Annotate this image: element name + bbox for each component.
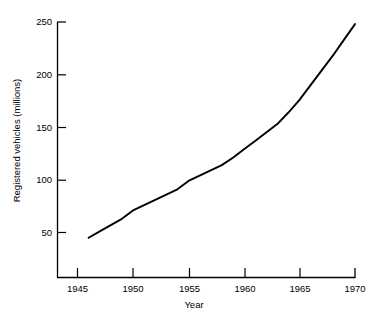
y-tick-label-250: 250 (26, 17, 52, 27)
x-tick-label-1965: 1965 (289, 284, 310, 294)
x-tick-label-1955: 1955 (179, 284, 200, 294)
y-tick-label-50: 50 (26, 228, 52, 238)
data-series-line (89, 24, 355, 238)
y-axis-ticks (57, 22, 66, 233)
chart-plot-area (0, 0, 388, 324)
x-tick-label-1970: 1970 (344, 284, 365, 294)
y-tick-label-100: 100 (26, 175, 52, 185)
x-axis-ticks (78, 268, 301, 277)
x-tick-label-1950: 1950 (122, 284, 143, 294)
x-tick-label-1945: 1945 (67, 284, 88, 294)
y-tick-label-150: 150 (26, 123, 52, 133)
chart-figure: 250 200 150 100 50 1945 1950 1955 1960 1… (0, 0, 388, 324)
y-tick-label-200: 200 (26, 70, 52, 80)
x-axis-title: Year (0, 299, 388, 310)
x-tick-label-1960: 1960 (234, 284, 255, 294)
